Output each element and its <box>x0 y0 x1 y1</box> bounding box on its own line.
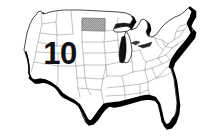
us-map-icon <box>0 0 207 137</box>
state-north-dakota <box>82 18 105 31</box>
value-label: 10 <box>37 38 83 70</box>
us-map-figure: 10 <box>0 0 207 137</box>
